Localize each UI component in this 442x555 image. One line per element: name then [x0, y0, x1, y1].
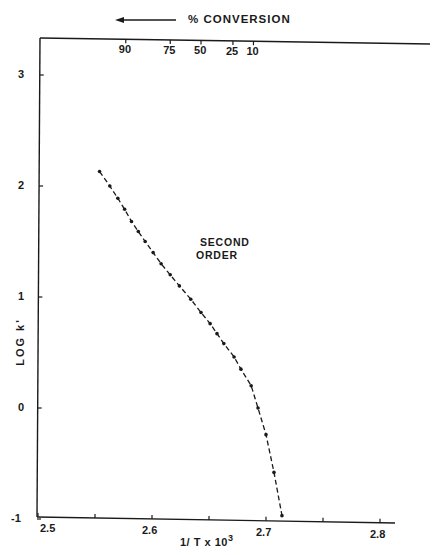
x-tick-label: 2.8 — [370, 528, 385, 540]
data-point — [189, 297, 193, 301]
x-axis-label-main: 1/ T x 10 — [180, 536, 228, 548]
top-axis-label: % CONVERSION — [188, 13, 291, 25]
y-tick-label: 2 — [18, 179, 24, 191]
data-point — [272, 471, 276, 475]
data-point — [249, 384, 253, 388]
data-point — [239, 367, 243, 371]
conversion-arrow — [115, 17, 176, 23]
y-axis — [37, 38, 40, 517]
plot-area — [0, 0, 442, 555]
data-point — [256, 406, 260, 410]
data-point — [137, 230, 141, 234]
x-tick-label: 2.6 — [142, 524, 157, 536]
data-point — [123, 208, 127, 212]
x-axis-label-exponent: 3 — [228, 533, 234, 543]
data-point — [264, 433, 268, 437]
data-point — [151, 251, 155, 255]
annotation-second-order: SECOND ORDER — [196, 236, 250, 262]
data-point — [199, 311, 203, 315]
data-point — [130, 220, 134, 224]
data-point — [215, 332, 219, 336]
conversion-tick-label: 10 — [246, 45, 258, 57]
data-point — [232, 355, 236, 359]
annotation-line-2: ORDER — [196, 249, 250, 262]
data-point — [208, 322, 212, 326]
data-line — [100, 172, 282, 516]
conversion-tick-label: 75 — [163, 44, 175, 56]
y-tick-label: -1 — [11, 512, 21, 524]
y-tick-label: 3 — [18, 68, 24, 80]
data-point — [108, 184, 112, 188]
data-point — [168, 273, 172, 277]
conversion-tick-label: 50 — [194, 44, 206, 56]
x-axis-label: 1/ T x 103 — [180, 533, 233, 548]
data-point — [222, 342, 226, 346]
conversion-tick-label: 25 — [226, 45, 238, 57]
data-point — [116, 196, 120, 200]
data-point — [143, 240, 147, 244]
x-tick-label: 2.5 — [40, 522, 55, 534]
data-point — [159, 262, 163, 266]
y-tick-label: 1 — [18, 290, 24, 302]
x-axis-top — [40, 38, 430, 44]
y-axis-label: LOG k' — [14, 318, 26, 366]
x-axis-bottom — [37, 517, 395, 523]
data-point — [280, 514, 284, 518]
x-tick-label: 2.7 — [256, 526, 271, 538]
conversion-tick-label: 90 — [119, 43, 131, 55]
y-tick-label: 0 — [18, 401, 24, 413]
data-point — [178, 284, 182, 288]
annotation-line-1: SECOND — [196, 236, 250, 249]
data-point — [98, 170, 102, 174]
